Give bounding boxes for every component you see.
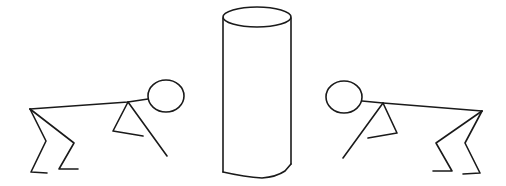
right-stick-figure: [326, 81, 482, 174]
right-figure-head: [326, 81, 362, 113]
illustration-canvas: [0, 0, 506, 186]
left-figure-leg-back: [30, 109, 47, 173]
right-figure-leg-back: [463, 111, 482, 174]
left-figure-head: [148, 80, 184, 112]
cylinder-bottom: [223, 164, 291, 178]
cylinder-top: [223, 7, 291, 27]
cylinder: [223, 7, 291, 178]
left-figure-arm-straight: [128, 102, 167, 156]
right-figure-arm-straight: [343, 103, 383, 158]
left-figure-arm-bent: [113, 102, 143, 136]
right-figure-arm-bent: [368, 103, 397, 138]
left-stick-figure: [30, 80, 184, 173]
